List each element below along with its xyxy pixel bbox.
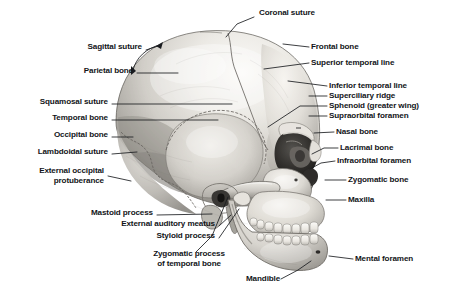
label-lambdoidal-suture: Lambdoidal suture (38, 147, 108, 156)
label-temporal-bone: Temporal bone (52, 113, 108, 122)
label-sagittal-suture: Sagittal suture (88, 42, 142, 51)
label-line-2: protuberance (54, 176, 104, 185)
label-maxilla: Maxilla (348, 195, 374, 204)
label-squamosal-suture: Squamosal suture (40, 97, 108, 106)
label-frontal-bone: Frontal bone (311, 42, 359, 51)
label-styloid-process: Styloid process (157, 231, 215, 240)
label-supraorbital-foramen: Supraorbital foramen (329, 111, 408, 120)
label-parietal-bone: Parietal bone (84, 66, 133, 75)
maxilla-region (247, 191, 324, 237)
label-external-occipital-protuberance: External occipitalprotuberance (39, 166, 104, 186)
label-external-auditory-meatus: External auditory meatus (121, 219, 215, 228)
label-superior-temporal-line: Superior temporal line (311, 58, 394, 67)
leader-frontal-bone (283, 44, 309, 47)
leader-mental-foramen (329, 256, 353, 259)
label-line-1: External occipital (39, 166, 104, 175)
label-line-1: Zygomatic process (153, 249, 225, 258)
label-zygomatic-bone: Zygomatic bone (348, 175, 408, 184)
label-infraorbital-foramen: Infraorbital foramen (337, 156, 411, 165)
leader-external-occipital-protuberance (108, 176, 131, 181)
label-mandible: Mandible (246, 274, 280, 283)
label-line-2: of temporal bone (157, 259, 221, 268)
label-zygomatic-process-of-temporal-bone: Zygomatic processof temporal bone (130, 249, 248, 269)
label-superciliary-ridge: Superciliary ridge (329, 91, 395, 100)
label-coronal-suture: Coronal suture (259, 8, 315, 17)
label-lacrimal-bone: Lacrimal bone (340, 143, 393, 152)
label-nasal-bone: Nasal bone (336, 127, 378, 136)
label-occipital-bone: Occipital bone (54, 130, 108, 139)
label-mental-foramen: Mental foramen (355, 254, 413, 263)
skull-anatomy-figure: Sagittal suture Parietal bone Squamosal … (0, 0, 450, 294)
label-inferior-temporal-line: Inferior temporal line (329, 81, 407, 90)
label-mastoid-process: Mastoid process (91, 208, 153, 217)
label-sphenoid-greater-wing: Sphenoid (greater wing) (329, 101, 419, 110)
